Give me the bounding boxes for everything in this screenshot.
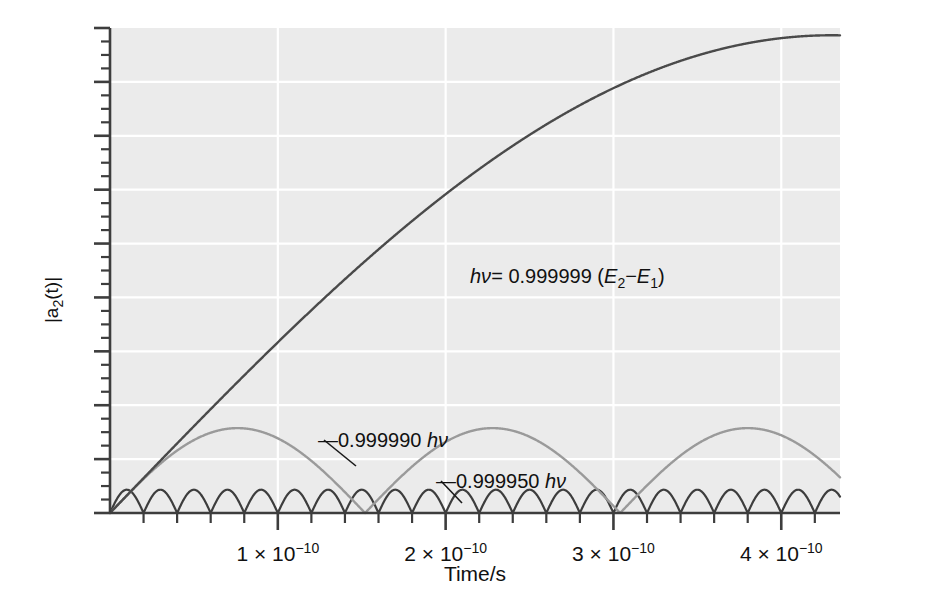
x-tick-mantissa: 1 <box>236 542 254 565</box>
annotation-main-minus: − <box>625 265 637 287</box>
x-tick-times-sign: × <box>590 542 608 565</box>
annotation-main-hnu: hν <box>470 265 491 287</box>
annotation-main-equals: = <box>491 265 508 287</box>
x-tick-exponent: −10 <box>463 540 487 556</box>
y-axis-label-part-2: (t)| <box>41 277 62 300</box>
x-axis-tick-labels: 1 × 10−102 × 10−103 × 10−104 × 10−10 <box>236 540 822 565</box>
x-tick-exponent: −10 <box>631 540 655 556</box>
annotation-fast-unit: hν <box>545 470 566 492</box>
x-tick-times-sign: × <box>422 542 440 565</box>
annotation-fast-curve: —0.999950 hν <box>436 470 566 492</box>
x-tick-base: 10 <box>272 542 295 565</box>
annotation-main-e2: E <box>604 265 618 287</box>
x-tick-mantissa: 4 <box>740 542 758 565</box>
annotation-fast-dash: — <box>436 470 456 492</box>
y-axis-label-subscript: 2 <box>50 300 66 308</box>
x-tick-exponent: −10 <box>295 540 319 556</box>
annotation-medium-unit: hν <box>427 429 448 451</box>
x-tick-label: 4 × 10−10 <box>740 540 823 565</box>
x-tick-base: 10 <box>776 542 799 565</box>
annotation-main-e2-subscript: 2 <box>617 275 625 291</box>
annotation-main-paren-close: ) <box>658 265 665 287</box>
x-tick-base: 10 <box>608 542 631 565</box>
x-tick-times-sign: × <box>254 542 272 565</box>
x-tick-label: 1 × 10−10 <box>236 540 319 565</box>
y-axis-label: |a2(t)| <box>41 277 66 323</box>
annotation-fast-value: 0.999950 <box>456 470 545 492</box>
x-tick-times-sign: × <box>757 542 775 565</box>
x-axis-ticks <box>144 513 815 530</box>
y-axis-label-text: |a2(t)| <box>41 277 66 323</box>
x-tick-label: 3 × 10−10 <box>572 540 655 565</box>
annotation-medium-dash: — <box>318 429 338 451</box>
annotation-main-value: 0.999999 <box>508 265 597 287</box>
chart-svg: 1 × 10−102 × 10−103 × 10−104 × 10−10 Tim… <box>0 0 940 615</box>
y-axis-label-part-1: |a <box>41 307 62 323</box>
figure-root: 1 × 10−102 × 10−103 × 10−104 × 10−10 Tim… <box>0 0 940 615</box>
x-axis-title: Time/s <box>444 562 506 585</box>
x-tick-exponent: −10 <box>799 540 823 556</box>
annotation-main-e1: E <box>637 265 651 287</box>
annotation-main-e1-subscript: 1 <box>650 275 658 291</box>
x-tick-mantissa: 3 <box>572 542 590 565</box>
annotation-medium-value: 0.999990 <box>338 429 427 451</box>
x-tick-mantissa: 2 <box>404 542 422 565</box>
annotation-medium-curve: —0.999990 hν <box>318 429 448 451</box>
y-axis-ticks <box>94 28 110 513</box>
